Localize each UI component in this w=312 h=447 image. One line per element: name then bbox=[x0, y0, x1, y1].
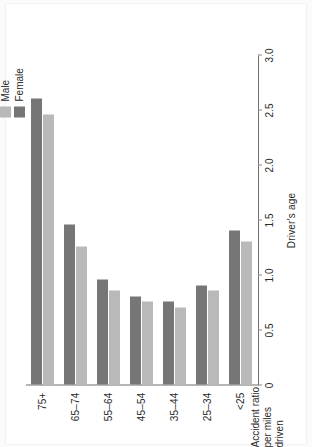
bar-male[interactable] bbox=[142, 302, 153, 385]
plot-area: <2525–3435–4445–5455–6465–7475+00.51.01.… bbox=[26, 55, 258, 385]
value-axis-title-line-3: driven bbox=[274, 327, 286, 447]
legend-swatch-icon bbox=[0, 106, 11, 117]
bar-group bbox=[195, 54, 221, 384]
bar-group bbox=[63, 54, 89, 384]
bar-male[interactable] bbox=[208, 291, 219, 385]
bar-female[interactable] bbox=[229, 230, 240, 384]
category-tick-label: 55–64 bbox=[103, 387, 114, 421]
value-tick-label: 2.5 bbox=[264, 103, 275, 117]
legend-label: Male bbox=[0, 79, 11, 101]
category-axis-title: Driver's age bbox=[286, 55, 297, 385]
legend-label: Female bbox=[14, 68, 25, 101]
category-tick-label: 35–44 bbox=[169, 387, 180, 421]
value-axis-title-line-1: Accident ratio bbox=[250, 327, 262, 447]
bar-male[interactable] bbox=[109, 291, 120, 385]
category-tick-label: 25–34 bbox=[202, 387, 213, 421]
bar-group bbox=[162, 54, 188, 384]
bar-female[interactable] bbox=[196, 285, 207, 384]
bar-male[interactable] bbox=[175, 307, 186, 384]
bar-female[interactable] bbox=[130, 296, 141, 384]
value-axis-title-line-2: per miles bbox=[262, 327, 274, 447]
category-tick-label: 75+ bbox=[37, 387, 48, 410]
bar-chart-figure: <2525–3435–4445–5455–6465–7475+00.51.01.… bbox=[0, 0, 312, 447]
value-tick-label: 3.0 bbox=[264, 48, 275, 62]
legend-swatch-icon bbox=[14, 106, 25, 117]
value-axis-title: Accident ratio per miles driven bbox=[250, 327, 286, 447]
category-tick-label: <25 bbox=[235, 387, 246, 410]
bar-female[interactable] bbox=[163, 302, 174, 385]
bar-female[interactable] bbox=[97, 280, 108, 385]
value-tick-mark bbox=[258, 109, 262, 110]
bar-female[interactable] bbox=[31, 98, 42, 384]
bar-group bbox=[30, 54, 56, 384]
legend-item[interactable]: Female bbox=[14, 68, 25, 117]
bar-group bbox=[96, 54, 122, 384]
chart-legend: MaleFemale bbox=[0, 68, 28, 117]
bar-male[interactable] bbox=[43, 115, 54, 385]
bar-group bbox=[129, 54, 155, 384]
bar-male[interactable] bbox=[76, 247, 87, 385]
bar-female[interactable] bbox=[64, 225, 75, 385]
value-tick-mark bbox=[258, 164, 262, 165]
legend-item[interactable]: Male bbox=[0, 68, 11, 117]
value-tick-label: 1.5 bbox=[264, 213, 275, 227]
value-tick-label: 1.0 bbox=[264, 268, 275, 282]
category-tick-label: 65–74 bbox=[70, 387, 81, 421]
category-tick-label: 45–54 bbox=[136, 387, 147, 421]
value-tick-label: 2.0 bbox=[264, 158, 275, 172]
value-tick-mark bbox=[258, 274, 262, 275]
value-tick-mark bbox=[258, 219, 262, 220]
rotated-figure-wrapper: <2525–3435–4445–5455–6465–7475+00.51.01.… bbox=[0, 0, 312, 447]
value-tick-mark bbox=[258, 54, 262, 55]
